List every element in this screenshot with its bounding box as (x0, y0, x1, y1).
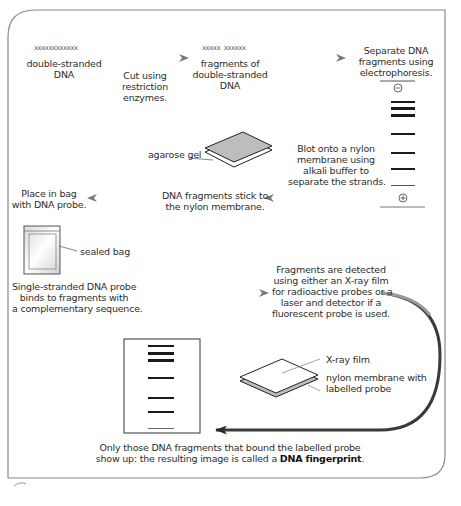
label-line: nylon membrane with (326, 372, 427, 383)
label-line: binds to fragments with (12, 292, 136, 303)
label-xray-film: X-ray film (326, 354, 370, 365)
label-line: double-stranded (26, 58, 102, 69)
label-line: Fragments are detected (272, 264, 390, 275)
label-line: separate the strands. (288, 176, 384, 187)
fingerprint-band (148, 352, 174, 355)
gel-band (391, 114, 415, 117)
fingerprint-band (148, 377, 174, 379)
label-line: restriction (110, 81, 180, 92)
step-fragments-stick: DNA fragments stick to the nylon membran… (160, 190, 270, 212)
step-probe-binds: Single-stranded DNA probe binds to fragm… (12, 281, 136, 314)
caption-period: . (361, 453, 364, 464)
label-line: fragments of (192, 58, 268, 69)
label-line: laser and detector if a (272, 297, 390, 308)
label-sealed-bag: sealed bag (80, 246, 130, 257)
step-electrophoresis: Separate DNA fragments using electrophor… (356, 45, 436, 78)
caption-line-1: Only those DNA fragments that bound the … (20, 442, 440, 453)
label-line: double-stranded (192, 69, 268, 80)
caption-line-2: show up: the resulting image is called a… (20, 453, 440, 464)
step-place-in-bag: Place in bag with DNA probe. (8, 188, 90, 210)
step-blot-nylon: Blot onto a nylon membrane using alkali … (288, 143, 384, 187)
label-line: electrophoresis. (356, 67, 436, 78)
label-line: fluorescent probe is used. (272, 308, 390, 319)
label-line: enzymes. (110, 92, 180, 103)
label-line: alkali buffer to (288, 165, 384, 176)
caption-term-dna-fingerprint: DNA fingerprint (280, 453, 362, 464)
gel-band (391, 152, 415, 154)
label-agarose-gel: agarose gel (148, 149, 201, 160)
label-line: DNA fragments stick to (160, 190, 270, 201)
label-line: Place in bag (8, 188, 90, 199)
label-double-stranded-dna: double-stranded DNA (26, 58, 102, 80)
label-line: labelled probe (326, 383, 427, 394)
label-line: membrane using (288, 154, 384, 165)
gel-band (391, 168, 415, 170)
label-nylon-membrane-probe: nylon membrane with labelled probe (326, 372, 427, 394)
label-line: Single-stranded DNA probe (12, 281, 136, 292)
label-line: for radioactive probes or a (272, 286, 390, 297)
label-fragments-ds-dna: fragments of double-stranded DNA (192, 58, 268, 91)
label-line: the nylon membrane. (160, 201, 270, 212)
label-line: a complementary sequence. (12, 303, 136, 314)
step-cut-restriction: Cut using restriction enzymes. (110, 70, 180, 103)
dna-double-strand-icon: xxxxxxxxxxxx (34, 44, 77, 52)
gel-band (391, 185, 415, 186)
label-line: DNA (192, 80, 268, 91)
caption: Only those DNA fragments that bound the … (20, 442, 440, 464)
label-line: Blot onto a nylon (288, 143, 384, 154)
fingerprint-band (148, 428, 174, 429)
gel-band (391, 101, 415, 103)
label-line: Separate DNA (356, 45, 436, 56)
fingerprint-band (148, 397, 174, 399)
fingerprint-band (148, 411, 174, 413)
label-line: Cut using (110, 70, 180, 81)
gel-band (391, 133, 415, 135)
label-line: DNA (26, 69, 102, 80)
label-line: using either an X-ray film (272, 275, 390, 286)
fingerprint-band (148, 359, 174, 362)
label-line: with DNA probe. (8, 199, 90, 210)
dna-fragments-icon: xxxxx xxxxxx (202, 44, 245, 52)
gel-band (391, 107, 415, 110)
label-line: fragments using (356, 56, 436, 67)
step-detection: Fragments are detected using either an X… (272, 264, 390, 319)
caption-text: show up: the resulting image is called a (96, 453, 280, 464)
fingerprint-band (148, 345, 174, 347)
